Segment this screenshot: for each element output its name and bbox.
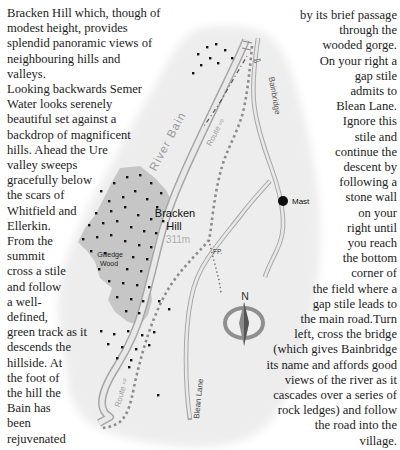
tree-dot: [209, 57, 211, 59]
tree-dot: [200, 64, 202, 66]
left-text-column: Bracken Hill which, though of modest hei…: [7, 6, 199, 447]
guidebook-page: Mast N River Bain Bainbridge ⇦ Bracken H…: [0, 0, 400, 450]
tree-dot: [206, 46, 208, 48]
right-text-column: by its brief passage through the wooded …: [219, 8, 397, 449]
tree-dot: [215, 43, 217, 45]
